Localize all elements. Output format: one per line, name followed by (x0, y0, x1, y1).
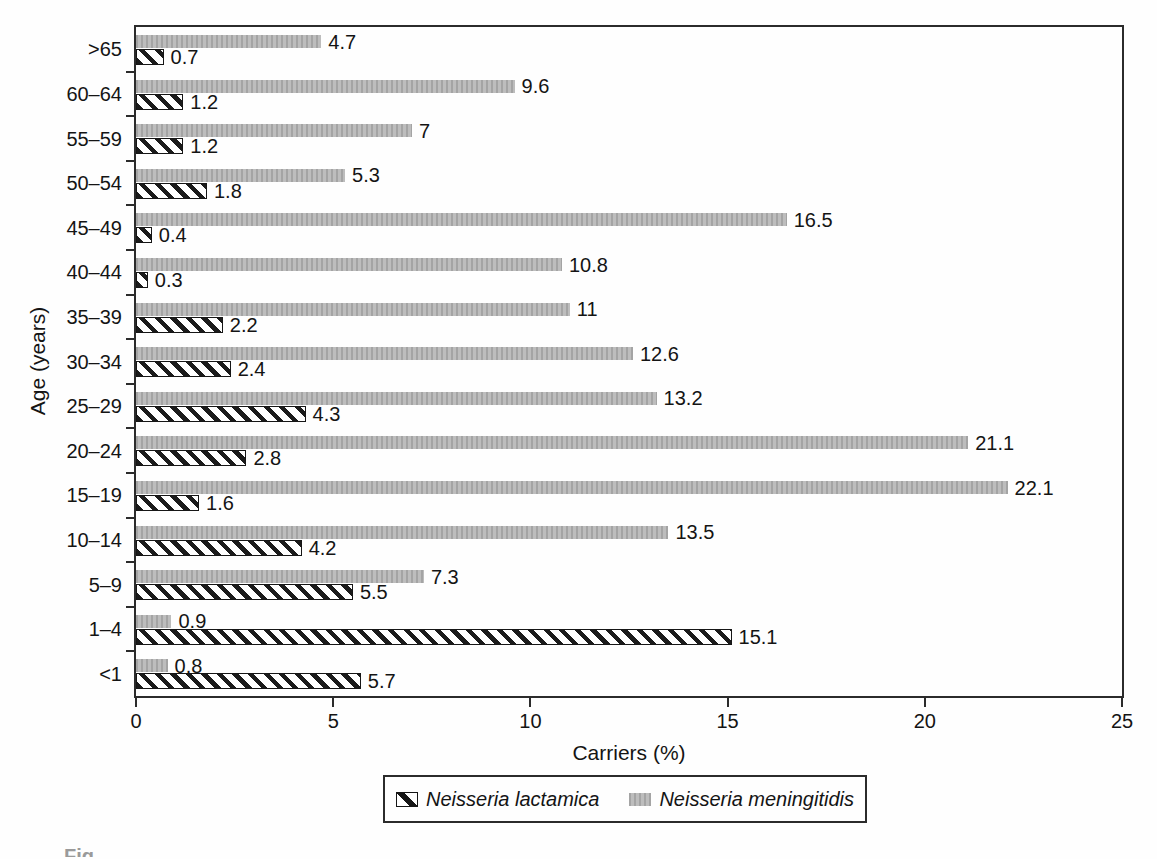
meningitidis-barline: 13.2 (136, 392, 703, 405)
y-axis-tick-label: 10–14 (0, 528, 122, 552)
lactamica-value-label: 4.2 (309, 538, 337, 558)
meningitidis-bar (136, 213, 787, 226)
lactamica-value-label: 5.7 (368, 671, 396, 691)
lactamica-value-label: 0.7 (171, 47, 199, 67)
meningitidis-bar (136, 615, 171, 628)
meningitidis-value-label: 11 (577, 299, 598, 319)
y-axis-tick-label: <1 (0, 662, 122, 686)
x-axis-tick (529, 698, 531, 707)
lactamica-bar (136, 673, 361, 689)
meningitidis-value-label: 21.1 (975, 433, 1014, 453)
age-group-row: 71.2 (136, 116, 1122, 161)
lactamica-value-label: 0.3 (155, 270, 183, 290)
lactamica-value-label: 1.2 (190, 136, 218, 156)
meningitidis-bar (136, 35, 321, 48)
meningitidis-value-label: 13.5 (675, 522, 714, 542)
lactamica-bar (136, 540, 302, 556)
age-group-row: 112.2 (136, 295, 1122, 340)
lactamica-barline: 0.4 (136, 227, 187, 243)
meningitidis-barline: 12.6 (136, 347, 679, 360)
x-axis-tick (924, 698, 926, 707)
x-axis-tick-label: 10 (500, 710, 560, 733)
lactamica-value-label: 2.8 (253, 448, 281, 468)
lactamica-value-label: 5.5 (360, 582, 388, 602)
lactamica-barline: 5.5 (136, 584, 388, 600)
y-axis-tick (126, 71, 134, 73)
age-group-row: 9.61.2 (136, 72, 1122, 117)
lactamica-value-label: 2.4 (238, 359, 266, 379)
meningitidis-value-label: 13.2 (664, 388, 703, 408)
lactamica-bar (136, 138, 183, 154)
lactamica-barline: 5.7 (136, 673, 396, 689)
lactamica-bar (136, 629, 732, 645)
lactamica-value-label: 15.1 (739, 627, 778, 647)
lactamica-barline: 2.4 (136, 361, 265, 377)
lactamica-bar (136, 49, 164, 65)
x-axis-tick (1121, 698, 1123, 707)
age-group-row: 16.50.4 (136, 205, 1122, 250)
lactamica-value-label: 1.6 (206, 493, 234, 513)
age-group-row: 21.12.8 (136, 428, 1122, 473)
meningitidis-barline: 13.5 (136, 526, 714, 539)
age-group-row: 13.24.3 (136, 384, 1122, 429)
x-axis-tick (332, 698, 334, 707)
lactamica-barline: 1.2 (136, 138, 218, 154)
y-axis-tick (126, 204, 134, 206)
lactamica-barline: 1.8 (136, 183, 242, 199)
legend-item-lactamica: Neisseria lactamica (396, 788, 599, 811)
meningitidis-bar (136, 124, 412, 137)
age-group-row: 22.11.6 (136, 473, 1122, 518)
y-axis-tick-label: 60–64 (0, 82, 122, 106)
x-axis-tick-label: 0 (106, 710, 166, 733)
meningitidis-value-label: 10.8 (569, 255, 608, 275)
lactamica-barline: 2.2 (136, 317, 258, 333)
lactamica-value-label: 2.2 (230, 315, 258, 335)
meningitidis-bar (136, 392, 657, 405)
plot-area: 4.70.79.61.271.25.31.816.50.410.80.3112.… (134, 25, 1124, 698)
lactamica-barline: 0.7 (136, 49, 198, 65)
y-axis-tick (126, 472, 134, 474)
lactamica-bar (136, 450, 246, 466)
y-axis-tick-label: 15–19 (0, 483, 122, 507)
lactamica-bar (136, 406, 306, 422)
y-axis-tick-label: 20–24 (0, 439, 122, 463)
age-group-row: 12.62.4 (136, 339, 1122, 384)
x-axis-tick-label: 15 (698, 710, 758, 733)
age-group-row: 4.70.7 (136, 27, 1122, 72)
meningitidis-barline: 16.5 (136, 213, 833, 226)
meningitidis-barline: 10.8 (136, 258, 608, 271)
meningitidis-bar (136, 258, 562, 271)
meningitidis-bar (136, 303, 570, 316)
x-axis-tick-label: 25 (1092, 710, 1152, 733)
y-axis-tick-label: 50–54 (0, 171, 122, 195)
y-axis-tick-label: 1–4 (0, 617, 122, 641)
lactamica-value-label: 0.4 (159, 225, 187, 245)
y-axis-tick-label: >65 (0, 37, 122, 61)
lactamica-barline: 2.8 (136, 450, 281, 466)
y-axis-tick (126, 249, 134, 251)
y-axis-tick (126, 427, 134, 429)
lactamica-hatch-swatch-icon (396, 792, 418, 807)
x-axis-tick-label: 20 (895, 710, 955, 733)
legend-item-meningitidis: Neisseria meningitidis (629, 788, 854, 811)
meningitidis-value-label: 7.3 (431, 567, 459, 587)
meningitidis-bar (136, 347, 633, 360)
age-group-row: 0.915.1 (136, 607, 1122, 652)
meningitidis-barline: 22.1 (136, 481, 1054, 494)
meningitidis-barline: 0.8 (136, 659, 202, 672)
meningitidis-value-label: 9.6 (522, 76, 550, 96)
y-axis-tick-label: 35–39 (0, 305, 122, 329)
y-axis-tick-label: 30–34 (0, 350, 122, 374)
lactamica-bar (136, 94, 183, 110)
meningitidis-barline: 7 (136, 124, 430, 137)
legend-label-meningitidis: Neisseria meningitidis (659, 788, 854, 811)
lactamica-value-label: 1.2 (190, 92, 218, 112)
lactamica-bar (136, 183, 207, 199)
y-axis-tick (126, 160, 134, 162)
meningitidis-bar (136, 659, 168, 672)
x-axis-tick-label: 5 (303, 710, 363, 733)
lactamica-barline: 1.2 (136, 94, 218, 110)
legend-box: Neisseria lactamica Neisseria meningitid… (383, 775, 867, 823)
meningitidis-bar (136, 526, 668, 539)
meningitidis-barline: 5.3 (136, 169, 380, 182)
